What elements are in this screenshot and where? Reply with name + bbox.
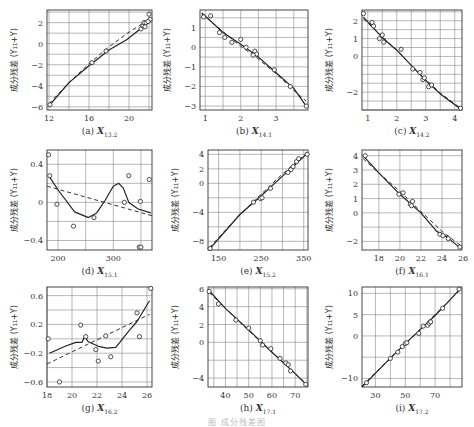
y-tick-label: 0 xyxy=(353,332,358,341)
panel-caption-i: (i) X17.2 xyxy=(342,403,474,415)
data-point xyxy=(388,356,392,360)
plot-i: 305070−100510成分残差 (Y₁₁+Y) xyxy=(0,0,474,427)
data-point xyxy=(364,381,368,385)
y-tick-label: −10 xyxy=(341,374,358,383)
data-point xyxy=(421,324,425,328)
caption-subscript: 17.2 xyxy=(415,408,428,415)
data-point xyxy=(429,320,433,324)
x-tick-label: 30 xyxy=(370,391,380,400)
y-axis-label: 成分残差 (Y₁₁+Y) xyxy=(324,305,334,369)
x-tick-label: 50 xyxy=(400,391,410,400)
y-tick-label: 5 xyxy=(353,311,358,320)
y-tick-label: 10 xyxy=(348,289,358,298)
x-tick-label: 70 xyxy=(430,391,440,400)
figure-caption: 图 成分残差图 xyxy=(0,416,474,427)
caption-letter: (i) xyxy=(395,403,408,413)
data-point xyxy=(440,306,444,310)
data-point xyxy=(417,331,421,335)
data-point xyxy=(457,287,461,291)
smooth-line xyxy=(362,288,461,387)
data-point xyxy=(405,341,409,345)
data-point xyxy=(396,350,400,354)
